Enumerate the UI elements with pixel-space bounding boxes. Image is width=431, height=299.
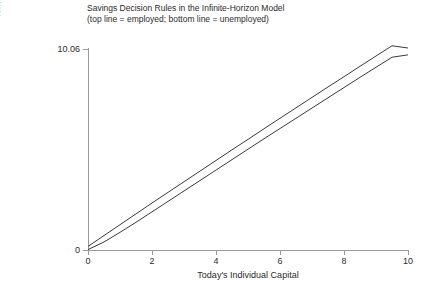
chart-canvas: Savings Decision Rules in the Infinite-H… xyxy=(0,0,431,299)
x-tick-mark-0 xyxy=(88,250,89,255)
x-tick-label-4: 4 xyxy=(213,256,218,266)
series-lines xyxy=(88,48,408,250)
y-tick-label-0: 0 xyxy=(75,245,80,255)
x-tick-mark-6 xyxy=(280,250,281,255)
x-axis-title: Today's Individual Capital xyxy=(88,270,408,280)
plot-area: 0 10.06 0 2 4 6 8 10 xyxy=(88,48,408,250)
x-tick-label-8: 8 xyxy=(341,256,346,266)
x-tick-label-2: 2 xyxy=(149,256,154,266)
line-employed xyxy=(88,46,408,247)
y-axis-title-text: Tomorrow's Individual Capital xyxy=(0,0,2,60)
x-tick-mark-8 xyxy=(344,250,345,255)
x-tick-label-6: 6 xyxy=(277,256,282,266)
chart-title: Savings Decision Rules in the Infinite-H… xyxy=(87,3,284,25)
chart-title-line-1: Savings Decision Rules in the Infinite-H… xyxy=(87,3,284,14)
x-tick-mark-10 xyxy=(408,250,409,255)
x-tick-mark-2 xyxy=(152,250,153,255)
y-axis-title: Tomorrow's Individual Capital xyxy=(0,0,2,60)
x-tick-mark-4 xyxy=(216,250,217,255)
x-tick-label-10: 10 xyxy=(403,256,413,266)
y-tick-label-1: 10.06 xyxy=(57,44,80,54)
line-unemployed xyxy=(88,55,408,250)
x-tick-label-0: 0 xyxy=(85,256,90,266)
chart-subtitle: (top line = employed; bottom line = unem… xyxy=(87,14,284,25)
